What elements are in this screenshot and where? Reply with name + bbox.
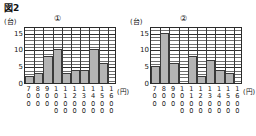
x-axis-tick-label: 1600	[235, 86, 239, 116]
bars-1	[25, 27, 116, 83]
y-axis-tick-label: 15	[140, 30, 149, 37]
y-axis-unit-label-2: (台)	[130, 16, 142, 26]
x-axis-tick-label: 900	[171, 86, 175, 108]
plot-right-border-2	[241, 27, 242, 83]
y-axis-tick-label: 10	[140, 47, 149, 54]
plot-area-2: 051015	[150, 27, 242, 84]
x-axis-tick-label: 1200	[72, 86, 76, 116]
chart-panel-2: (台) ② 051015 700800900100011001200130014…	[128, 8, 252, 134]
x-axis-tick-label: 800	[162, 86, 166, 108]
x-axis-tick-label: 1000	[180, 86, 184, 116]
x-axis-tick-label: 1100	[189, 86, 193, 116]
histogram-bar	[53, 49, 62, 83]
x-axis-tick-label: 1500	[226, 86, 230, 116]
y-axis-tick-label: 15	[14, 30, 23, 37]
x-axis-tick-label: 900	[45, 86, 49, 108]
y-axis-tick-label: 0	[145, 81, 149, 88]
x-axis-tick-label: 1400	[91, 86, 95, 116]
x-axis-unit-label-2: (円)	[243, 86, 255, 96]
y-axis-tick-label: 5	[19, 64, 23, 71]
histogram-bar	[25, 76, 34, 83]
histogram-bar	[34, 73, 43, 83]
plot-area-1: 051015	[24, 27, 116, 84]
plot-top-border-1	[25, 27, 116, 28]
x-axis-tick-label: 800	[36, 86, 40, 108]
histogram-bar	[188, 56, 197, 83]
y-axis-tick-label: 10	[14, 47, 23, 54]
y-axis-tick-label: 5	[145, 64, 149, 71]
chart-label-2: ②	[180, 14, 187, 23]
x-axis-tick-label: 1100	[63, 86, 67, 116]
histogram-bar	[80, 70, 89, 83]
x-axis-labels-1: 7008009001000110012001300140015001600	[24, 86, 116, 134]
histogram-bar	[89, 49, 98, 83]
y-axis-unit-label-1: (台)	[4, 16, 16, 26]
histogram-bar	[206, 60, 215, 83]
histogram-bar	[225, 73, 234, 83]
plot-right-border-1	[115, 27, 116, 83]
x-axis-tick-label: 700	[26, 86, 30, 108]
figure-container: 図2 (台) ① 051015 700800900100011001200130…	[0, 0, 256, 136]
x-axis-tick-label: 1300	[208, 86, 212, 116]
chart-panel-1: (台) ① 051015 700800900100011001200130014…	[2, 8, 126, 134]
x-axis-tick-label: 700	[152, 86, 156, 108]
chart-label-1: ①	[54, 14, 61, 23]
plot-top-border-2	[151, 27, 242, 28]
histogram-bar	[160, 33, 169, 83]
x-axis-labels-2: 7008009001000110012001300140015001600	[150, 86, 242, 134]
x-axis-tick-label: 1600	[109, 86, 113, 116]
histogram-bar	[99, 63, 108, 83]
histogram-bar	[62, 73, 71, 83]
bars-2	[151, 27, 242, 83]
x-axis-tick-label: 1500	[100, 86, 104, 116]
x-axis-tick-label: 1400	[217, 86, 221, 116]
x-axis-tick-label: 1200	[198, 86, 202, 116]
histogram-bar	[169, 63, 178, 83]
y-axis-tick-label: 0	[19, 81, 23, 88]
x-axis-tick-label: 1000	[54, 86, 58, 116]
histogram-bar	[71, 70, 80, 83]
histogram-bar	[43, 56, 52, 83]
x-axis-tick-label: 1300	[82, 86, 86, 116]
histogram-bar	[197, 76, 206, 83]
histogram-bar	[151, 66, 160, 83]
histogram-bar	[215, 70, 224, 83]
